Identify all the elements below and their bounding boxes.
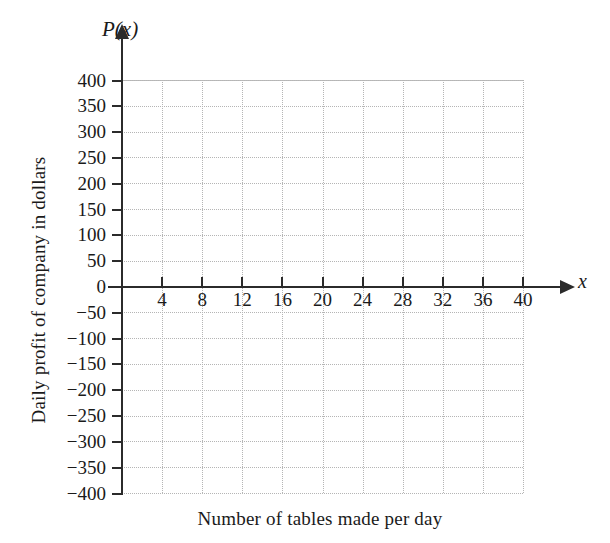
y-axis-tick — [112, 234, 123, 236]
x-axis-line — [108, 286, 563, 288]
x-axis-tick — [442, 277, 444, 287]
y-axis-tick-label-text: 100 — [44, 224, 106, 246]
y-axis-tick — [112, 493, 123, 495]
x-axis-tick-label: 20 — [303, 289, 343, 311]
x-axis-tick — [522, 277, 524, 287]
y-axis-tick-label-text: −100 — [44, 328, 106, 350]
x-axis-tick-label: 8 — [182, 289, 222, 311]
x-axis-tick — [322, 277, 324, 287]
y-axis-tick — [112, 105, 123, 107]
y-axis-tick — [112, 415, 123, 417]
y-axis-tick — [112, 80, 123, 82]
grid-line-horizontal — [122, 80, 523, 81]
x-axis-tick-label: 32 — [423, 289, 463, 311]
y-axis-tick-label-text: −350 — [44, 457, 106, 479]
y-axis-tick — [112, 389, 123, 391]
x-axis-tick-label: 28 — [383, 289, 423, 311]
x-axis-tick-label: 12 — [222, 289, 262, 311]
y-axis-tick-label-text: 0 — [44, 276, 106, 298]
y-axis-tick — [112, 157, 123, 159]
x-axis-symbol-label: x — [578, 270, 587, 293]
chart-figure: Daily profit of company in dollars Numbe… — [0, 0, 610, 543]
y-axis-arrow-icon — [115, 24, 129, 39]
y-axis-tick-label: −150 — [42, 353, 106, 373]
x-axis-title: Number of tables made per day — [115, 508, 525, 530]
grid-line-horizontal — [122, 157, 523, 158]
x-axis-tick-label: 16 — [262, 289, 302, 311]
grid-line-horizontal — [122, 416, 523, 417]
y-axis-tick-label: 150 — [42, 199, 106, 219]
y-axis-tick-label: −300 — [42, 431, 106, 451]
y-axis-tick — [112, 363, 123, 365]
x-axis-tick — [482, 277, 484, 287]
y-axis-tick-label-text: 250 — [44, 147, 106, 169]
grid-line-horizontal — [122, 312, 523, 313]
y-axis-tick — [112, 209, 123, 211]
y-axis-tick-label: 250 — [42, 147, 106, 167]
y-axis-tick-label-text: 50 — [44, 250, 106, 272]
y-axis-tick-label-text: −250 — [44, 405, 106, 427]
y-axis-tick-label-text: 150 — [44, 199, 106, 221]
y-axis-tick — [112, 467, 123, 469]
y-axis-tick-label: −400 — [42, 483, 106, 503]
y-axis-tick-label-text: 400 — [44, 70, 106, 92]
y-axis-tick — [112, 312, 123, 314]
x-axis-tick-label: 24 — [343, 289, 383, 311]
y-axis-tick — [112, 441, 123, 443]
y-axis-tick-label-text: −50 — [44, 302, 106, 324]
y-axis-tick-label: 400 — [42, 70, 106, 90]
y-axis-tick-label-text: 300 — [44, 121, 106, 143]
grid-line-horizontal — [122, 261, 523, 262]
x-axis-tick-label: 36 — [463, 289, 503, 311]
y-axis-tick-label: −50 — [42, 302, 106, 322]
grid-line-horizontal — [122, 467, 523, 468]
x-axis-tick — [241, 277, 243, 287]
grid-line-horizontal — [122, 132, 523, 133]
grid-line-horizontal — [122, 106, 523, 107]
y-axis-tick-label: 100 — [42, 224, 106, 244]
y-axis-tick-label: 200 — [42, 173, 106, 193]
x-axis-tick — [402, 277, 404, 287]
y-axis-tick-label: −350 — [42, 457, 106, 477]
x-axis-tick — [161, 277, 163, 287]
y-axis-tick-label-text: −400 — [44, 483, 106, 505]
x-axis-tick-label: 4 — [142, 289, 182, 311]
y-axis-tick-label-text: −300 — [44, 431, 106, 453]
grid-line-horizontal — [122, 338, 523, 339]
y-axis-tick — [112, 183, 123, 185]
grid-line-horizontal — [122, 209, 523, 210]
y-axis-tick — [112, 131, 123, 133]
y-axis-tick-label-text: 350 — [44, 95, 106, 117]
y-axis-tick-label-text: −150 — [44, 353, 106, 375]
x-axis-arrow-icon — [560, 280, 575, 294]
y-axis-tick-label: 0 — [42, 276, 106, 296]
x-axis-tick — [362, 277, 364, 287]
y-axis-tick-label: −100 — [42, 328, 106, 348]
grid-line-horizontal — [122, 390, 523, 391]
grid-line-horizontal — [122, 493, 523, 494]
y-axis-tick-label: 300 — [42, 121, 106, 141]
y-axis-tick-label: 350 — [42, 95, 106, 115]
y-axis-tick — [112, 260, 123, 262]
x-axis-tick-label: 40 — [503, 289, 543, 311]
y-axis-tick-label: −250 — [42, 405, 106, 425]
y-axis-tick-label: 50 — [42, 250, 106, 270]
grid-line-horizontal — [122, 235, 523, 236]
y-axis-tick-label-text: 200 — [44, 173, 106, 195]
grid-line-horizontal — [122, 441, 523, 442]
grid-line-horizontal — [122, 364, 523, 365]
y-axis-tick-label-text: −200 — [44, 379, 106, 401]
x-axis-tick — [201, 277, 203, 287]
y-axis-tick-label: −200 — [42, 379, 106, 399]
y-axis-tick — [112, 338, 123, 340]
x-axis-tick — [281, 277, 283, 287]
grid-line-horizontal — [122, 183, 523, 184]
